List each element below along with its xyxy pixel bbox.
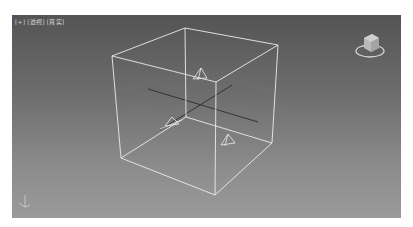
- viewcube-icon[interactable]: [356, 34, 384, 57]
- scene-canvas[interactable]: [12, 15, 401, 218]
- light-target-icon[interactable]: [221, 134, 235, 146]
- home-grid: [100, 70, 315, 140]
- perspective-viewport[interactable]: [+][透视][真实]: [12, 15, 401, 218]
- light-target-icon[interactable]: [193, 68, 207, 80]
- axis-tripod-icon: [19, 195, 30, 207]
- box-wireframe[interactable]: [112, 28, 278, 195]
